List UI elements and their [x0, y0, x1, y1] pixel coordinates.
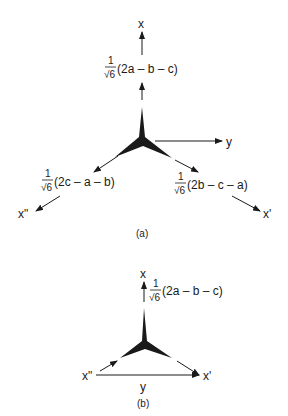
formula-numerator: 1	[153, 278, 159, 289]
formula-denominator: √6	[174, 185, 185, 196]
formula-top-a: 1 √6 (2a – b – c)	[104, 55, 178, 80]
formula-denominator: √6	[41, 182, 52, 193]
arrow-lower-right-outer-a	[232, 196, 260, 211]
arrow-lower-left-outer-a	[36, 196, 60, 211]
axis-label-x-double-prime-a: x"	[18, 207, 28, 221]
formula-expression: (2a – b – c)	[117, 62, 178, 76]
panel-a: x y x" x' 1 √6 (2a – b – c) 1 √6 (2c – a…	[18, 17, 271, 239]
axis-label-x-prime-b: x'	[203, 369, 211, 383]
formula-right-a: 1 √6 (2b – c – a)	[174, 171, 248, 196]
formula-denominator: √6	[104, 69, 115, 80]
formula-left-a: 1 √6 (2c – a – b)	[41, 168, 115, 193]
formula-expression: (2a – b – c)	[162, 284, 223, 298]
formula-denominator: √6	[149, 292, 160, 303]
axis-label-x-a: x	[138, 17, 144, 31]
arrow-x-prime-diag-b	[177, 361, 199, 375]
trigonal-star-a	[115, 107, 172, 158]
caption-b: (b)	[137, 398, 149, 409]
formula-expression: (2c – a – b)	[54, 175, 115, 189]
trigonal-star-b	[120, 308, 172, 358]
formula-numerator: 1	[108, 55, 114, 66]
arrow-x-double-prime-b	[100, 361, 117, 371]
formula-top-b: 1 √6 (2a – b – c)	[149, 278, 223, 303]
axis-label-y-a: y	[226, 135, 232, 149]
axis-label-y-b: y	[140, 380, 146, 394]
caption-a: (a)	[136, 228, 148, 239]
axis-label-x-b: x	[140, 267, 146, 281]
arrow-lower-left-inner-a	[94, 156, 118, 172]
formula-expression: (2b – c – a)	[187, 178, 248, 192]
diagram-canvas: x y x" x' 1 √6 (2a – b – c) 1 √6 (2c – a…	[0, 0, 288, 416]
formula-numerator: 1	[45, 168, 51, 179]
panel-b: x 1 √6 (2a – b – c) x" x' y (b)	[82, 267, 223, 409]
axis-label-x-prime-a: x'	[263, 207, 271, 221]
axis-label-x-double-prime-b: x"	[82, 369, 92, 383]
formula-numerator: 1	[178, 171, 184, 182]
